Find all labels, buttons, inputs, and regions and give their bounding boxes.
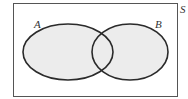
set-a-label: A — [33, 18, 41, 30]
universe-label: S — [180, 3, 186, 15]
set-b-label: B — [155, 18, 162, 30]
venn-diagram: A B S — [0, 0, 188, 99]
